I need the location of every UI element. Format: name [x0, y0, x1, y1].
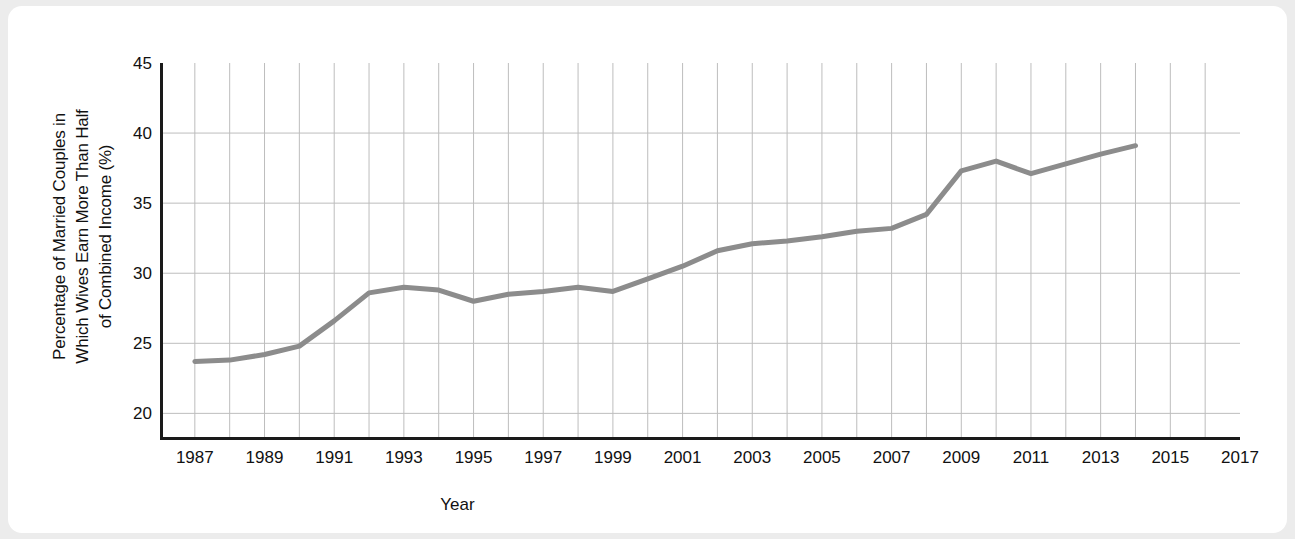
x-tick-label: 2015	[1140, 448, 1200, 468]
x-axis-ticks: 1987198919911993199519971999200120032005…	[160, 440, 1240, 480]
x-axis-title: Year	[8, 495, 1287, 515]
x-tick-label: 1995	[444, 448, 504, 468]
x-tick-label: 1989	[235, 448, 295, 468]
x-tick-label: 2007	[862, 448, 922, 468]
y-tick-label: 30	[112, 264, 152, 284]
x-tick-label: 2009	[931, 448, 991, 468]
y-axis-title-line-2: Which Wives Earn More Than Half	[71, 47, 94, 427]
y-tick-label: 40	[112, 124, 152, 144]
axis-frame	[160, 63, 1240, 440]
y-axis-title-line-1: Percentage of Married Couples in	[48, 47, 71, 427]
y-axis-ticks: 454035302520	[104, 63, 152, 440]
x-tick-label: 1991	[304, 448, 364, 468]
y-tick-label: 35	[112, 194, 152, 214]
x-tick-label: 1997	[513, 448, 573, 468]
line-chart-svg	[160, 63, 1240, 440]
y-tick-label: 20	[112, 404, 152, 424]
plot-area	[160, 63, 1240, 440]
horizontal-gridlines	[160, 133, 1240, 413]
chart-figure: Percentage of Married Couples in Which W…	[8, 6, 1287, 533]
y-tick-label: 45	[112, 54, 152, 74]
x-tick-label: 2001	[653, 448, 713, 468]
chart-card: Percentage of Married Couples in Which W…	[8, 6, 1287, 533]
x-tick-label: 2005	[792, 448, 852, 468]
x-tick-label: 2003	[722, 448, 782, 468]
x-axis-title-text: Year	[440, 495, 474, 514]
x-tick-label: 1993	[374, 448, 434, 468]
y-tick-label: 25	[112, 334, 152, 354]
x-tick-label: 1987	[165, 448, 225, 468]
x-tick-label: 1999	[583, 448, 643, 468]
x-tick-label: 2013	[1071, 448, 1131, 468]
x-tick-label: 2011	[1001, 448, 1061, 468]
data-series-line	[195, 146, 1136, 362]
vertical-gridlines	[195, 63, 1205, 440]
x-tick-label: 2017	[1210, 448, 1270, 468]
